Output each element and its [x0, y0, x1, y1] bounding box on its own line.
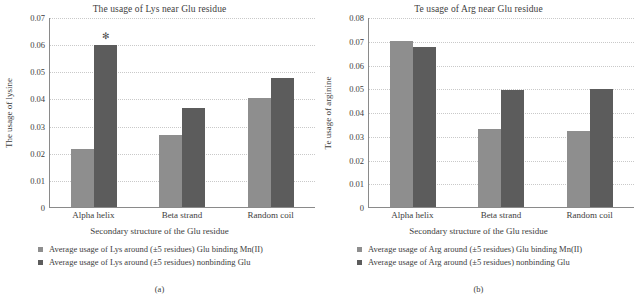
x-axis-ticks: Alpha helixBeta strandRandom coil	[368, 210, 634, 220]
x-tick-label: Alpha helix	[49, 210, 138, 220]
y-tick-label: 0.01	[30, 176, 45, 186]
bar	[501, 90, 524, 207]
y-axis-label-text: The usage of lysine	[4, 78, 14, 148]
chart-panel-b: Te usage of Arg near Glu residueTe usage…	[319, 0, 638, 306]
bar-groups	[369, 18, 634, 207]
y-tick-label: 0.01	[349, 179, 364, 189]
bar	[390, 41, 413, 207]
x-axis-label: Secondary structure of the Glu residue	[319, 226, 638, 236]
chart-panel-a: The usage of Lys near Glu residueThe usa…	[0, 0, 319, 306]
legend-swatch-icon	[357, 260, 362, 265]
legend-swatch-icon	[38, 260, 43, 265]
bar	[248, 98, 271, 207]
legend-item[interactable]: Average usage of Arg around (±5 residues…	[357, 244, 638, 254]
y-tick-label: 0	[41, 203, 45, 213]
y-tick-label: 0	[360, 203, 364, 213]
legend-label: Average usage of Arg around (±5 residues…	[368, 244, 582, 254]
panel-caption: (b)	[319, 284, 638, 294]
legend-item[interactable]: Average usage of Lys around (±5 residues…	[38, 244, 319, 254]
y-tick-label: 0.07	[30, 13, 45, 23]
chart-title: Te usage of Arg near Glu residue	[319, 0, 638, 14]
bar	[182, 108, 205, 207]
bar	[478, 129, 501, 207]
bar-group	[369, 18, 457, 207]
chart-title: The usage of Lys near Glu residue	[0, 0, 319, 14]
legend-swatch-icon	[38, 247, 43, 252]
y-tick-label: 0.02	[30, 149, 45, 159]
x-axis-label: Secondary structure of the Glu residue	[0, 226, 319, 236]
x-axis-ticks: Alpha helixBeta strandRandom coil	[49, 210, 315, 220]
y-tick-label: 0.04	[349, 108, 364, 118]
y-axis-ticks: 00.010.020.030.040.050.060.070.08	[333, 18, 367, 208]
y-axis-ticks: 00.010.020.030.040.050.060.07	[14, 18, 48, 208]
bar	[567, 131, 590, 207]
plot-area: Te usage of arginine00.010.020.030.040.0…	[319, 18, 638, 208]
y-axis-label-text: Te usage of arginine	[323, 77, 333, 150]
x-tick-label: Beta strand	[138, 210, 227, 220]
bar	[271, 78, 294, 207]
bar-group	[546, 18, 634, 207]
legend-label: Average usage of Lys around (±5 residues…	[49, 257, 250, 267]
y-tick-label: 0.05	[30, 67, 45, 77]
bar-group	[227, 18, 315, 207]
y-tick-label: 0.02	[349, 156, 364, 166]
y-tick-label: 0.08	[349, 13, 364, 23]
y-tick-label: 0.03	[349, 132, 364, 142]
panel-caption: (a)	[0, 284, 319, 294]
bar-groups: ✻	[50, 18, 315, 207]
bar-group: ✻	[50, 18, 138, 207]
plot-area: The usage of lysine00.010.020.030.040.05…	[0, 18, 319, 208]
bar	[413, 47, 436, 207]
bar-group	[138, 18, 226, 207]
x-tick-label: Alpha helix	[368, 210, 457, 220]
bar	[159, 135, 182, 207]
y-tick-label: 0.03	[30, 122, 45, 132]
y-tick-label: 0.06	[30, 40, 45, 50]
chart-legend: Average usage of Lys around (±5 residues…	[0, 244, 319, 270]
x-tick-label: Beta strand	[457, 210, 546, 220]
legend-swatch-icon	[357, 247, 362, 252]
legend-item[interactable]: Average usage of Arg around (±5 residues…	[357, 257, 638, 267]
chart-legend: Average usage of Arg around (±5 residues…	[319, 244, 638, 270]
x-tick-label: Random coil	[226, 210, 315, 220]
significance-marker: ✻	[102, 32, 110, 41]
plot-canvas	[368, 18, 634, 208]
legend-item[interactable]: Average usage of Lys around (±5 residues…	[38, 257, 319, 267]
legend-label: Average usage of Lys around (±5 residues…	[49, 244, 263, 254]
bar	[71, 149, 94, 207]
x-tick-label: Random coil	[545, 210, 634, 220]
y-tick-label: 0.07	[349, 37, 364, 47]
y-tick-label: 0.05	[349, 84, 364, 94]
bar	[590, 89, 613, 207]
y-tick-label: 0.06	[349, 61, 364, 71]
bar-group	[457, 18, 545, 207]
legend-label: Average usage of Arg around (±5 residues…	[368, 257, 570, 267]
figure: The usage of Lys near Glu residueThe usa…	[0, 0, 638, 306]
bar: ✻	[94, 45, 117, 207]
y-tick-label: 0.04	[30, 94, 45, 104]
plot-canvas: ✻	[49, 18, 315, 208]
